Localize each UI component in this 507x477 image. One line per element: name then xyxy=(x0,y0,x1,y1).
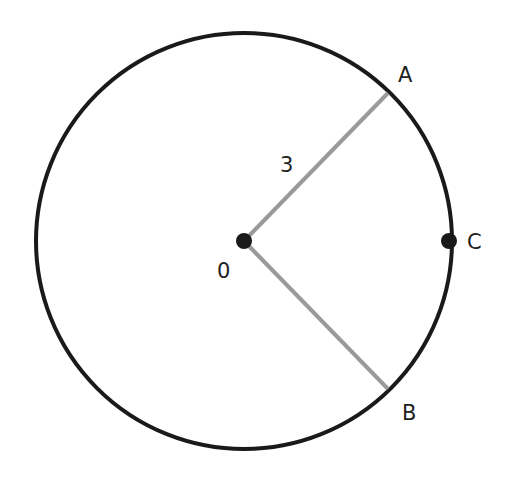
circle-diagram: 0 3 A B C xyxy=(0,0,507,477)
center-point xyxy=(236,233,252,249)
radius-label: 3 xyxy=(280,153,293,177)
point-b-label: B xyxy=(402,401,416,425)
radius-ob xyxy=(244,241,388,389)
point-c xyxy=(441,233,457,249)
point-a-label: A xyxy=(398,63,413,87)
radius-oa xyxy=(244,93,388,241)
point-c-label: C xyxy=(467,230,482,254)
center-label: 0 xyxy=(217,259,230,283)
